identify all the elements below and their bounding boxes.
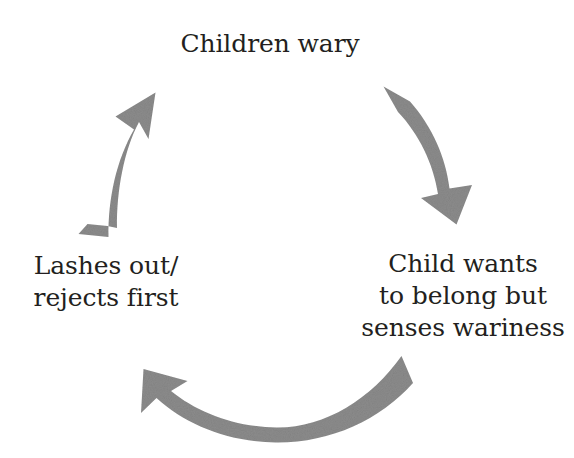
arrow-top-right-icon bbox=[384, 87, 473, 225]
cycle-arrows-group bbox=[0, 0, 574, 458]
arrow-bottom-icon bbox=[141, 356, 413, 443]
cycle-diagram: Children wary Child wants to belong but … bbox=[0, 0, 574, 458]
node-label-lashes-out: Lashes out/ rejects first bbox=[6, 250, 206, 314]
node-label-child-wants-belong: Child wants to belong but senses warines… bbox=[352, 248, 574, 344]
arrow-left-icon bbox=[79, 93, 156, 238]
node-label-children-wary: Children wary bbox=[97, 28, 443, 60]
